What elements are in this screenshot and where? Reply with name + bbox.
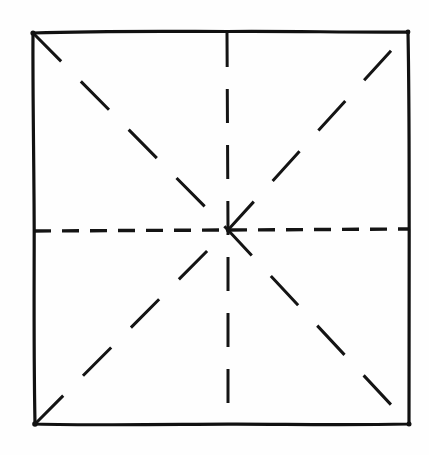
diagram-canvas: A hand-drawn square sheet with solid out… bbox=[0, 0, 429, 455]
corner-mark-bottom-right bbox=[407, 422, 412, 427]
center-point-mark bbox=[226, 228, 230, 232]
origami-fold-diagram bbox=[0, 0, 429, 455]
corner-mark-bottom-left bbox=[32, 421, 38, 427]
page-background bbox=[0, 0, 429, 455]
corner-mark-top-left bbox=[30, 30, 35, 35]
corner-mark-top-right bbox=[406, 30, 411, 35]
